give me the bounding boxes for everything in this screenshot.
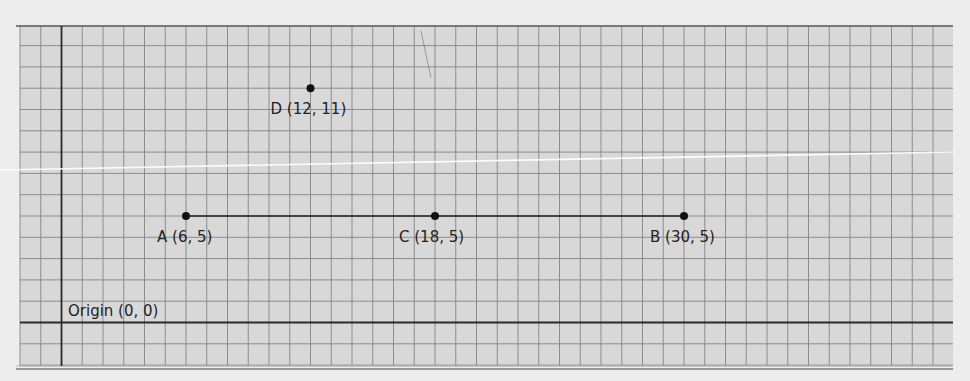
coordinate-grid-figure: A (6, 5) C (18, 5) B (30, 5) D (12, 11) … — [0, 0, 970, 381]
origin-label: Origin (0, 0) — [68, 302, 158, 320]
point-c-label: C (18, 5) — [399, 228, 464, 246]
point-a-label: A (6, 5) — [157, 228, 212, 246]
point-b-marker — [680, 212, 688, 220]
point-d-label: D (12, 11) — [271, 100, 347, 118]
point-b-label: B (30, 5) — [650, 228, 715, 246]
point-c-marker — [431, 212, 439, 220]
point-d-marker — [307, 84, 315, 92]
grid-background — [20, 26, 953, 367]
point-a-marker — [182, 212, 190, 220]
